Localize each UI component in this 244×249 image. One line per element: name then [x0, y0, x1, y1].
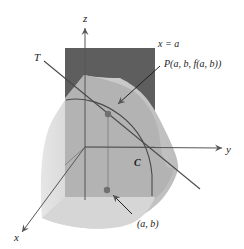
point-ab-label: (a, b) — [137, 218, 159, 230]
tangent-label: T — [34, 51, 41, 63]
curve-label: C — [134, 157, 141, 168]
surface-face — [65, 75, 175, 200]
x-axis-label: x — [13, 231, 19, 243]
y-axis-label: y — [225, 143, 231, 155]
plane-label: x = a — [157, 38, 179, 49]
point-ab[interactable] — [104, 187, 110, 193]
diagram-canvas: z y x T x = a P(a, b, f(a, b)) C (a, b) — [0, 0, 244, 249]
z-axis-label: z — [82, 12, 88, 24]
point-p[interactable] — [105, 111, 111, 117]
point-p-label: P(a, b, f(a, b)) — [163, 58, 222, 70]
